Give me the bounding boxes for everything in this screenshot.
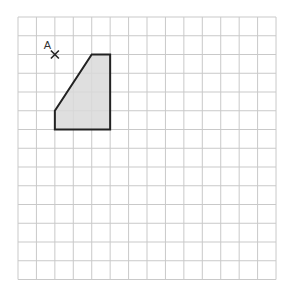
point-label: A bbox=[44, 39, 52, 51]
grid-diagram: A bbox=[0, 0, 292, 294]
point-a-marker: A bbox=[44, 39, 59, 59]
